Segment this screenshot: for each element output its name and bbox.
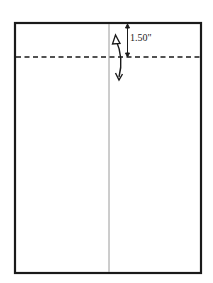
dimension-label: 1.50" (130, 33, 152, 43)
fold-diagram (0, 0, 213, 283)
page-outline (15, 23, 201, 273)
